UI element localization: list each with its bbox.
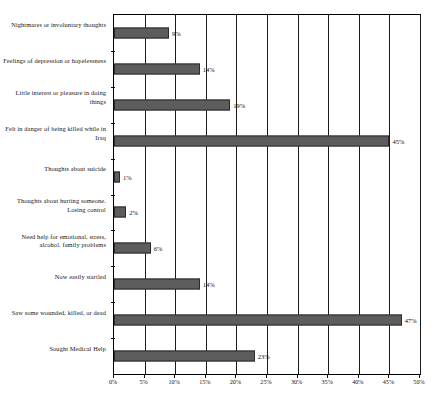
- category-axis-tick: [111, 159, 115, 160]
- value-axis-tick-label: 40%: [352, 378, 363, 385]
- bar-value-label: 6%: [151, 245, 163, 252]
- value-axis-labels: 0%5%10%15%20%25%30%35%40%45%50%: [113, 378, 421, 398]
- bar[interactable]: [114, 243, 151, 254]
- bar[interactable]: [114, 315, 402, 326]
- gridline: [420, 15, 421, 374]
- chart-bar-row[interactable]: 14%: [114, 51, 420, 87]
- chart-bar-row[interactable]: 47%: [114, 302, 420, 338]
- bar-value-label: 23%: [255, 353, 270, 360]
- category-axis-tick: [111, 230, 115, 231]
- bar-value-label: 2%: [126, 209, 138, 216]
- category-axis-tick: [111, 338, 115, 339]
- category-axis-tick: [111, 87, 115, 88]
- value-axis-tick-label: 10%: [169, 378, 180, 385]
- category-axis-labels: Nightmares or involuntary thoughtsFeelin…: [0, 14, 110, 375]
- value-axis-tick-label: 0%: [109, 378, 117, 385]
- chart-bar-row[interactable]: 9%: [114, 15, 420, 51]
- bar-value-label: 14%: [200, 65, 215, 72]
- category-axis-tick: [111, 302, 115, 303]
- bar[interactable]: [114, 27, 169, 38]
- value-axis-tick-label: 45%: [383, 378, 394, 385]
- category-label: Feelings of depression or hopelessness: [0, 57, 106, 66]
- chart-bar-row[interactable]: 2%: [114, 195, 420, 231]
- category-axis-tick: [111, 195, 115, 196]
- chart-bar-row[interactable]: 6%: [114, 230, 420, 266]
- category-label: Thoughts about hurting someone. Losing c…: [0, 197, 106, 214]
- bar-value-label: 47%: [402, 317, 417, 324]
- bar-chart: Nightmares or involuntary thoughtsFeelin…: [0, 0, 435, 401]
- bar[interactable]: [114, 351, 255, 362]
- bar[interactable]: [114, 279, 200, 290]
- value-axis-tick-label: 35%: [322, 378, 333, 385]
- category-label: Felt in danger of being killed while in …: [0, 125, 106, 142]
- bar-value-label: 9%: [169, 29, 181, 36]
- value-axis-tick-label: 30%: [291, 378, 302, 385]
- value-axis-tick-label: 5%: [139, 378, 147, 385]
- value-axis-tick-label: 15%: [199, 378, 210, 385]
- bar-value-label: 1%: [120, 173, 132, 180]
- bar-value-label: 19%: [230, 101, 245, 108]
- chart-bar-row[interactable]: 14%: [114, 266, 420, 302]
- category-axis-tick: [111, 266, 115, 267]
- bar[interactable]: [114, 207, 126, 218]
- category-axis-tick: [111, 123, 115, 124]
- plot-area: 9%14%19%45%1%2%6%14%47%23%: [113, 14, 421, 375]
- value-axis-tick-label: 20%: [230, 378, 241, 385]
- category-label: Now easily startled: [0, 273, 106, 282]
- value-axis-tick-label: 50%: [413, 378, 424, 385]
- chart-bar-row[interactable]: 1%: [114, 159, 420, 195]
- category-label: Saw some wounded, killed, or dead: [0, 309, 106, 318]
- chart-bar-row[interactable]: 45%: [114, 123, 420, 159]
- category-label: Little interest or pleasure in doing thi…: [0, 89, 106, 106]
- category-label: Need help for emotional, stress, alcohol…: [0, 233, 106, 250]
- category-axis-tick: [111, 51, 115, 52]
- chart-bar-row[interactable]: 19%: [114, 87, 420, 123]
- category-label: Sought Medical Help: [0, 345, 106, 354]
- bar[interactable]: [114, 63, 200, 74]
- chart-bar-row[interactable]: 23%: [114, 338, 420, 374]
- bar[interactable]: [114, 135, 389, 146]
- bar-value-label: 14%: [200, 281, 215, 288]
- category-label: Thoughts about suicide: [0, 165, 106, 174]
- bar-value-label: 45%: [389, 137, 404, 144]
- bar[interactable]: [114, 99, 230, 110]
- category-label: Nightmares or involuntary thoughts: [0, 21, 106, 30]
- value-axis-tick-label: 25%: [260, 378, 271, 385]
